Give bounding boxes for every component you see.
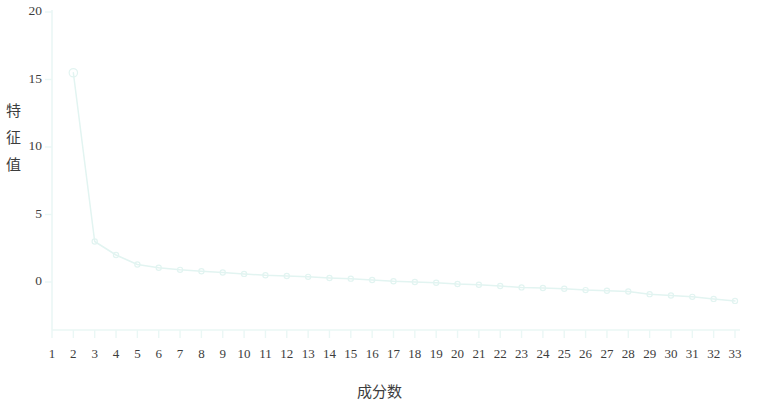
x-tick-marks [52, 330, 735, 338]
y-tick-label: 5 [12, 206, 42, 222]
y-tick-label: 15 [12, 71, 42, 87]
x-tick-label: 33 [723, 346, 747, 362]
y-tick-label: 10 [12, 138, 42, 154]
y-tick-marks [45, 12, 52, 282]
y-tick-label: 20 [12, 3, 42, 19]
y-tick-label: 0 [12, 273, 42, 289]
eigenvalue-line [73, 73, 735, 301]
scree-plot-chart: 特 征 值 成分数 05101520 123456789101112131415… [0, 0, 759, 410]
